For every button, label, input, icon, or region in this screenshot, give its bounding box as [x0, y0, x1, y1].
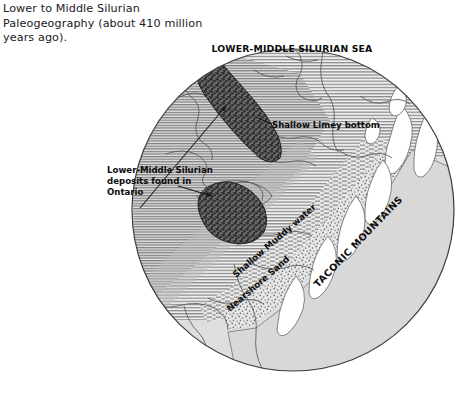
label-ontario-deposits-line-1: Lower-Middle Silurian — [107, 165, 213, 175]
label-ontario-deposits-line-2: deposits found in — [107, 176, 191, 186]
globe-contents — [130, 22, 460, 376]
paleogeography-map: LOWER-MIDDLE SILURIAN SEA Shallow Limey … — [0, 0, 464, 409]
label-silurian-sea: LOWER-MIDDLE SILURIAN SEA — [212, 43, 374, 54]
label-ontario-deposits-line-3: Ontario — [107, 187, 144, 197]
label-shallow-limey-bottom: Shallow Limey bottom — [272, 120, 380, 130]
